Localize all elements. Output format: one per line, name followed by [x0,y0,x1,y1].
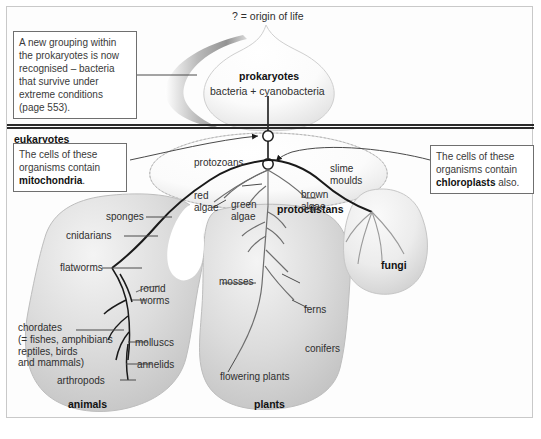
callout-tail: . [82,175,85,186]
group-label-flowering-plants: flowering plants [220,371,289,383]
tree-of-life-figure: ? = origin of life eukaryotes prokaryote… [0,0,541,439]
callout-tail: also. [495,177,519,188]
fungi-title: fungi [381,259,407,271]
callout-prokaryote-note: A new grouping within the prokaryotes is… [13,31,137,119]
callout-line: A new grouping within [19,36,131,49]
callout-line: organisms contain [436,163,528,176]
callout-line: The cells of these [19,148,121,161]
group-label-mosses: mosses [219,276,253,288]
callout-line: the prokaryotes is now [19,49,131,62]
group-label-slime-moulds: slime moulds [330,163,362,187]
group-label-flatworms: flatworms [60,262,103,274]
group-label-chordates: chordates (= fishes, amphibians reptiles… [18,322,113,369]
prokaryotes-subtitle: bacteria + cyanobacteria [210,85,325,97]
callout-emphasis: chloroplasts [436,177,495,188]
callout-emphasis: mitochondria [19,175,82,186]
callout-chloroplast-note: The cells of these organisms contain chl… [430,145,534,194]
plants-title: plants [254,398,285,410]
callout-line: chloroplasts also. [436,176,528,189]
origin-of-life-label: ? = origin of life [232,10,304,22]
callout-line: (page 553). [19,101,131,114]
group-label-green-algae: green algae [231,199,257,223]
callout-line: extreme conditions [19,88,131,101]
group-label-protozoans: protozoans [194,157,243,169]
group-label-arthropods: arthropods [57,375,105,387]
callout-line: organisms contain [19,161,121,174]
callout-line: mitochondria. [19,174,121,187]
group-label-conifers: conifers [305,343,340,355]
animals-title: animals [68,398,107,410]
prokaryotes-title: prokaryotes [239,70,299,82]
group-label-ferns: ferns [304,304,326,316]
callout-line: recognised – bacteria [19,62,131,75]
group-label-cnidarians: cnidarians [66,230,112,242]
group-label-sponges: sponges [106,211,144,223]
callout-line: that survive under [19,75,131,88]
group-label-round-worms: round worms [140,283,169,307]
group-label-brown-algae: brown algae [301,189,328,213]
callout-line: The cells of these [436,150,528,163]
callout-mitochondria-note: The cells of these organisms contain mit… [13,143,127,192]
group-label-red-algae: red algae [194,190,218,214]
prokaryote-eukaryote-divider [7,124,534,129]
group-label-molluscs: molluscs [135,337,174,349]
group-label-annelids: annelids [137,359,174,371]
